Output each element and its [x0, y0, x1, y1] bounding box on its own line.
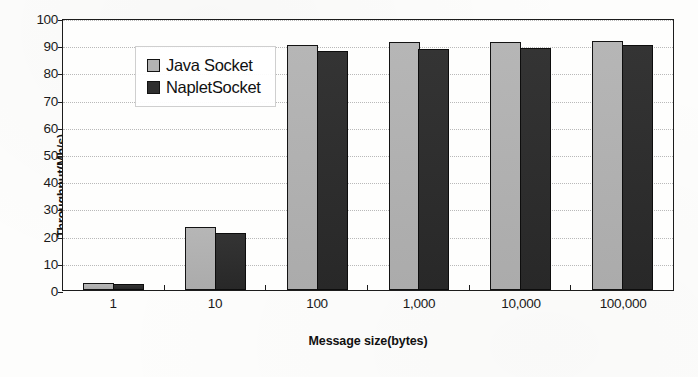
legend-label: Java Socket: [166, 56, 253, 75]
legend: Java Socket NapletSocket: [135, 46, 276, 107]
bar: [287, 45, 318, 290]
bar-group: [470, 20, 572, 290]
bar-group: [266, 20, 368, 290]
y-axis-tick-label: 20: [24, 229, 58, 244]
chart-figure: Throughput(Mb/s) 1009080706050403020100 …: [0, 0, 698, 377]
y-axis-tick-label: 70: [24, 93, 58, 108]
bar: [185, 227, 216, 290]
x-axis-tick-label: 10,000: [470, 296, 572, 311]
y-axis-tick-label: 0: [24, 284, 58, 299]
x-axis-tick-label: 1,000: [368, 296, 470, 311]
bar: [389, 42, 420, 290]
y-axis-tick-label: 80: [24, 66, 58, 81]
x-axis-title: Message size(bytes): [62, 334, 674, 348]
y-axis: Throughput(Mb/s) 1009080706050403020100: [20, 19, 58, 291]
bar: [418, 49, 449, 290]
bar: [113, 284, 144, 290]
y-axis-tick-label: 100: [24, 12, 58, 27]
bar-group: [571, 20, 673, 290]
legend-label: NapletSocket: [166, 78, 261, 97]
plot-area: Java Socket NapletSocket: [62, 19, 674, 291]
bar: [592, 41, 623, 290]
legend-item-java-socket: Java Socket: [147, 54, 261, 76]
y-axis-tick-mark: [58, 292, 63, 293]
legend-swatch-icon: [147, 59, 160, 72]
legend-swatch-icon: [147, 81, 160, 94]
bar: [83, 283, 114, 290]
y-axis-tick-label: 60: [24, 120, 58, 135]
y-axis-tick-label: 10: [24, 256, 58, 271]
x-axis-tick-label: 100,000: [572, 296, 674, 311]
bar: [317, 51, 348, 290]
y-axis-tick-label: 50: [24, 148, 58, 163]
x-axis-tick-label: 10: [164, 296, 266, 311]
legend-item-naplet-socket: NapletSocket: [147, 76, 261, 98]
bar: [490, 42, 521, 290]
bar-group: [368, 20, 470, 290]
y-axis-tick-label: 30: [24, 202, 58, 217]
x-axis-tick-label: 100: [266, 296, 368, 311]
y-axis-tick-label: 90: [24, 39, 58, 54]
x-axis-tick-labels: 1101001,00010,000100,000: [62, 296, 674, 311]
bar: [215, 233, 246, 290]
x-axis-tick-label: 1: [62, 296, 164, 311]
y-axis-tick-label: 40: [24, 175, 58, 190]
bar: [622, 45, 653, 290]
bar: [520, 48, 551, 290]
